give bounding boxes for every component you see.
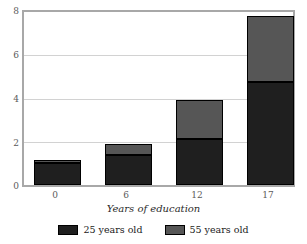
stacked-bar-chart: 8 6 4 2 0 [0,0,307,244]
y-tick-label-4: 4 [3,95,19,104]
legend-item-25-years-old[interactable]: 25 years old [58,225,142,235]
x-tick-label-17: 17 [253,191,283,200]
legend-swatch-icon-55yo [165,225,185,235]
legend-label-25yo: 25 years old [83,225,142,235]
y-tick-label-6: 6 [3,51,19,60]
y-tick-label-2: 2 [3,139,19,148]
bar-segment-55yo-6[interactable] [105,144,152,155]
bar-group-6[interactable] [105,144,152,185]
legend-label-55yo: 55 years old [190,225,249,235]
bar-segment-25yo-0[interactable] [34,163,81,185]
bar-segment-55yo-12[interactable] [176,100,223,139]
legend-swatch-icon-25yo [58,225,78,235]
plot-area [22,10,295,187]
x-tick-label-6: 6 [111,191,141,200]
legend-item-55-years-old[interactable]: 55 years old [165,225,249,235]
x-tick-label-12: 12 [182,191,212,200]
y-tick-label-0: 0 [3,182,19,191]
plot-inner [24,12,293,185]
x-axis-title: Years of education [0,203,307,214]
bar-segment-25yo-12[interactable] [176,139,223,185]
bar-group-17[interactable] [247,16,294,185]
bar-segment-55yo-17[interactable] [247,16,294,82]
y-tick-label-8: 8 [3,7,19,16]
bar-segment-25yo-17[interactable] [247,82,294,185]
bar-group-12[interactable] [176,100,223,185]
bar-segment-25yo-6[interactable] [105,155,152,185]
bar-group-0[interactable] [34,160,81,185]
x-tick-label-0: 0 [40,191,70,200]
chart-legend: 25 years old 55 years old [0,225,307,235]
